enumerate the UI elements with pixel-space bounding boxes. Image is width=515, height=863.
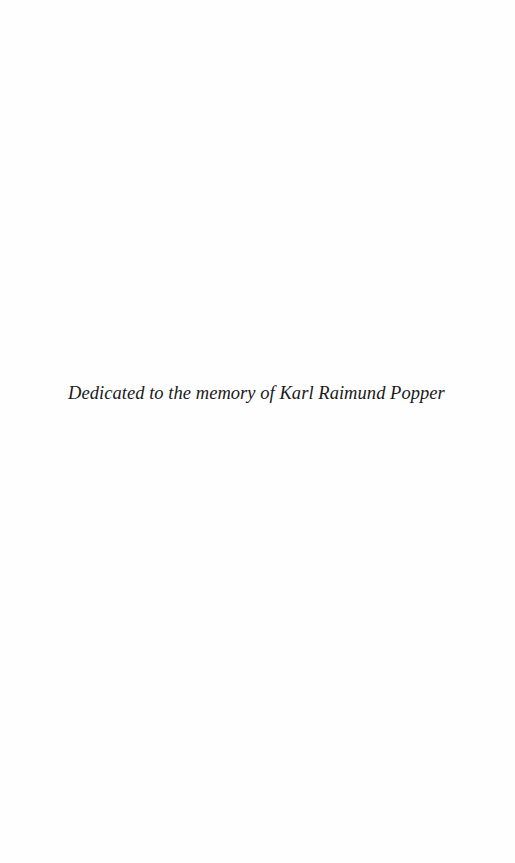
- document-page: Dedicated to the memory of Karl Raimund …: [0, 0, 515, 863]
- dedication-text: Dedicated to the memory of Karl Raimund …: [68, 381, 445, 405]
